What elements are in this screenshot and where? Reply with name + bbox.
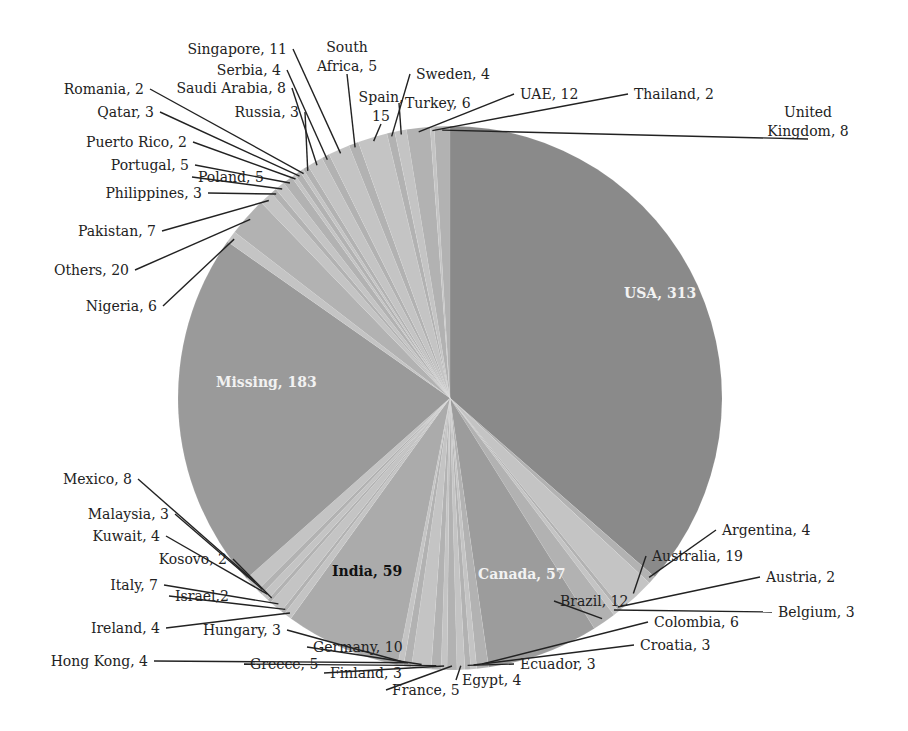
leader-line [614,610,772,612]
slice-label-france: France, 5 [392,682,460,698]
slice-label-serbia: Serbia, 4 [217,62,281,78]
slice-label-egypt: Egypt, 4 [462,672,522,688]
slice-label-puerto-rico: Puerto Rico, 2 [86,134,187,150]
slice-label-kuwait: Kuwait, 4 [93,528,161,544]
slice-label-india: India, 59 [332,563,402,579]
slice-label-australia: Australia, 19 [651,548,743,564]
slice-label-kosovo: Kosovo, 2 [159,551,227,567]
slice-label-nigeria: Nigeria, 6 [86,298,157,314]
leader-line [347,74,355,147]
slice-label-portugal: Portugal, 5 [111,157,189,173]
pie-chart-svg: USA, 313Argentina, 4Australia, 19Austria… [0,0,908,731]
slice-label-brazil: Brazil, 12 [560,593,628,609]
slice-label-philippines: Philippines, 3 [105,185,202,201]
slice-label-line2: Kingdom, 8 [767,123,848,139]
pie-chart: USA, 313Argentina, 4Australia, 19Austria… [0,0,908,731]
pie-slices [178,126,722,670]
slice-label-belgium: Belgium, 3 [778,604,855,620]
leader-line [208,193,276,194]
slice-label-qatar: Qatar, 3 [97,104,154,120]
leader-line [292,88,317,165]
slice-label-croatia: Croatia, 3 [640,637,710,653]
slice-label-hungary: Hungary, 3 [203,622,281,638]
slice-label-others: Others, 20 [54,262,129,278]
slice-label-spain: Spain, [359,89,404,105]
slice-label-mexico: Mexico, 8 [63,471,132,487]
slice-label-sweden: Sweden, 4 [416,66,490,82]
slice-label-ireland: Ireland, 4 [91,620,160,636]
slice-label-south-africa: South [326,39,368,55]
slice-label-united-kingdom: United [784,104,832,120]
slice-label-thailand: Thailand, 2 [634,86,714,102]
leader-line [305,112,308,171]
slice-label-ecuador: Ecuador, 3 [520,656,596,672]
slice-label-pakistan: Pakistan, 7 [78,223,156,239]
slice-label-turkey: Turkey, 6 [405,95,471,111]
slice-label-uae: UAE, 12 [520,86,578,102]
slice-label-saudi-arabia: Saudi Arabia, 8 [176,80,286,96]
slice-label-hong-kong: Hong Kong, 4 [51,653,148,669]
slice-label-israel: Israel,2 [175,588,229,604]
slice-label-usa: USA, 313 [624,285,696,301]
slice-label-russia: Russia, 3 [234,104,299,120]
slice-label-argentina: Argentina, 4 [721,522,810,538]
slice-label-poland: Poland, 5 [198,169,264,185]
slice-label-line2: Africa, 5 [316,58,377,74]
slice-label-romania: Romania, 2 [64,81,144,97]
slice-label-malaysia: Malaysia, 3 [88,506,169,522]
slice-label-finland: Finland, 3 [330,665,402,681]
slice-label-canada: Canada, 57 [478,566,566,582]
slice-label-austria: Austria, 2 [765,569,835,585]
slice-label-germany: Germany, 10 [313,639,403,655]
slice-label-missing: Missing, 183 [216,374,317,390]
slice-label-italy: Italy, 7 [110,577,158,593]
slice-label-colombia: Colombia, 6 [654,614,739,630]
slice-label-singapore: Singapore, 11 [188,41,287,57]
slice-label-greece: Greece, 5 [250,656,318,672]
slice-label-line2: 15 [372,108,390,124]
